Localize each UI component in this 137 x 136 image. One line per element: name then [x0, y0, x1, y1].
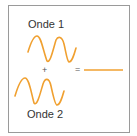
- wave-1-label: Onde 1: [28, 19, 64, 30]
- waves-canvas: [0, 0, 137, 136]
- equals-sign: =: [75, 65, 80, 74]
- wave-1: [28, 36, 76, 62]
- wave-2-label: Onde 2: [27, 109, 63, 120]
- plus-sign: +: [42, 66, 47, 75]
- wave-2: [15, 78, 64, 105]
